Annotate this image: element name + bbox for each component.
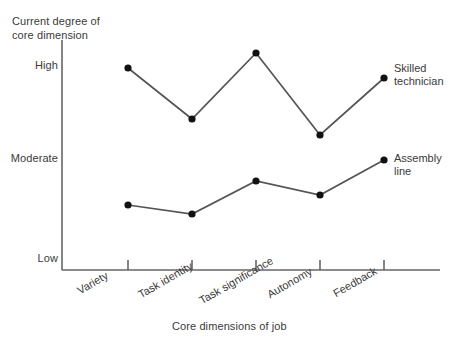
y-tick-label-moderate: Moderate: [6, 152, 58, 165]
data-point: [380, 156, 387, 163]
data-point: [124, 64, 131, 71]
job-characteristics-line-chart: Current degree of core dimension High Mo…: [0, 0, 453, 346]
data-point: [188, 115, 195, 122]
y-tick-label-low: Low: [24, 252, 58, 265]
data-point: [188, 210, 195, 217]
series-assembly-line: [124, 156, 387, 217]
data-point: [380, 74, 387, 81]
data-point: [252, 177, 259, 184]
data-point: [316, 191, 323, 198]
data-point: [316, 131, 323, 138]
series-assembly-line-line: [128, 160, 384, 214]
data-point: [252, 49, 259, 56]
y-axis-title: Current degree of core dimension: [12, 14, 100, 42]
y-tick-label-high: High: [24, 59, 58, 72]
series-label-assembly-line: Assembly line: [394, 152, 442, 178]
series-skilled-technician: [124, 49, 387, 138]
data-point: [124, 201, 131, 208]
chart-plot-area: [0, 0, 453, 346]
series-label-skilled-technician: Skilled technician: [394, 62, 444, 88]
x-axis-title: Core dimensions of job: [172, 320, 287, 333]
series-skilled-technician-line: [128, 53, 384, 135]
